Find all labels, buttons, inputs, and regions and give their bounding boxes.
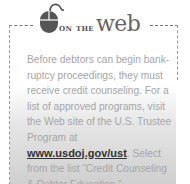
dashed-border-left: [9, 25, 10, 184]
section-title: on theweb: [59, 11, 140, 36]
dashed-border-top-right: [150, 25, 178, 26]
usdoj-link[interactable]: www.usdoj.gov/ust: [27, 147, 127, 159]
header: on theweb: [0, 0, 190, 34]
body-paragraph: Before debtors can begin bank-ruptcy pro…: [27, 52, 175, 184]
dashed-border-right: [177, 25, 178, 80]
body-text-before: Before debtors can begin bank-ruptcy pro…: [27, 54, 171, 143]
dashed-border-top-left: [9, 25, 33, 26]
on-the-web-sidebar: on theweb Before debtors can begin bank-…: [0, 0, 190, 184]
title-main: web: [96, 11, 140, 36]
title-prefix: on the: [59, 22, 94, 33]
